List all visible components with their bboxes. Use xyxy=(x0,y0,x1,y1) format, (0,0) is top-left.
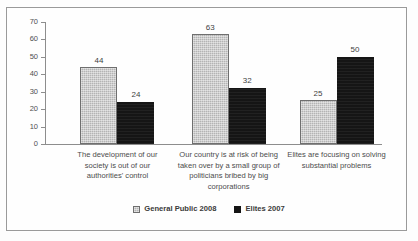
y-axis-tick xyxy=(41,144,45,145)
bar-elites: 24 xyxy=(117,102,154,144)
bar-value-label: 24 xyxy=(117,91,154,99)
bar-general-public: 44 xyxy=(80,67,117,144)
bar-chart-figure: 010203040506070 442463322550 The develop… xyxy=(0,0,418,241)
bar-elites: 32 xyxy=(229,88,266,144)
category-label-line: politicians bribed by big xyxy=(163,171,295,182)
x-axis-line xyxy=(45,144,382,145)
bar-group: 2550 xyxy=(300,22,374,144)
bar-value-label: 32 xyxy=(229,77,266,85)
y-axis-tick-label: 60 xyxy=(30,36,38,44)
y-axis-tick-label: 10 xyxy=(30,123,38,131)
legend-label: Elites 2007 xyxy=(245,205,284,213)
bar-general-public: 25 xyxy=(300,100,337,144)
bar-value-label: 50 xyxy=(337,46,374,54)
category-label-line: Elites are focusing on solving xyxy=(271,150,403,161)
y-axis-tick-label: 20 xyxy=(30,105,38,113)
black-square-swatch-icon xyxy=(234,206,241,213)
category-label-line: substantial problems xyxy=(271,161,403,172)
bar-value-label: 44 xyxy=(81,57,116,65)
x-axis-category-labels: The development of oursociety is out of … xyxy=(45,150,382,198)
y-axis-tick-label: 30 xyxy=(30,88,38,96)
bar-general-public: 63 xyxy=(192,34,229,144)
legend-item: Elites 2007 xyxy=(234,205,284,213)
category-label-line: society is out of our xyxy=(54,161,180,172)
chart-legend: General Public 2008Elites 2007 xyxy=(0,205,418,213)
category-label-line: The development of our xyxy=(54,150,180,161)
bar-value-label: 25 xyxy=(301,90,336,98)
y-axis-tick-label: 50 xyxy=(30,53,38,61)
y-axis-tick-label: 70 xyxy=(30,18,38,26)
category-label-line: corporations xyxy=(163,182,295,193)
bar-group: 4424 xyxy=(80,22,154,144)
legend-item: General Public 2008 xyxy=(133,205,216,213)
plot-area: 010203040506070 442463322550 xyxy=(45,22,382,145)
bar-group: 6332 xyxy=(192,22,266,144)
x-axis-category-label: Elites are focusing on solvingsubstantia… xyxy=(271,150,403,171)
y-axis-tick-label: 0 xyxy=(34,140,38,148)
y-axis-tick-label: 40 xyxy=(30,71,38,79)
gray-square-swatch-icon xyxy=(133,206,140,213)
bar-elites: 50 xyxy=(337,57,374,144)
x-axis-category-label: The development of oursociety is out of … xyxy=(54,150,180,182)
category-label-line: authorities' control xyxy=(54,171,180,182)
legend-label: General Public 2008 xyxy=(144,205,216,213)
bar-value-label: 63 xyxy=(193,24,228,32)
bar-group-container: 442463322550 xyxy=(45,22,382,144)
